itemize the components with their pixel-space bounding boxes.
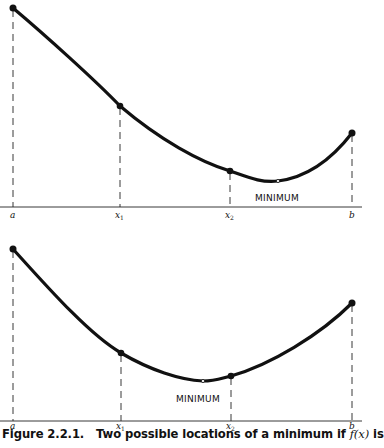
caption-tail: is [373,427,384,441]
top-panel: MINIMUM a x1 x2 b [0,5,362,222]
top-label-x1: x1 [115,210,124,221]
bottom-point-a [10,246,17,253]
bottom-point-min [201,379,204,382]
bottom-point-x2 [228,373,235,380]
top-point-x2 [227,168,234,175]
top-curve [13,8,352,181]
top-dashed-guides [13,10,352,207]
bottom-panel: MINIMUM a x1 x2 b [0,246,362,433]
top-point-a [10,5,17,12]
caption-fx: f(x) [350,427,369,441]
top-point-b [349,130,356,137]
caption-label: Figure 2.2.1. [2,427,84,441]
bottom-minimum-label: MINIMUM [176,394,220,404]
top-point-min [276,179,279,182]
top-label-b: b [349,210,355,220]
bottom-point-b [349,300,356,307]
top-point-x1 [117,103,124,110]
top-minimum-label: MINIMUM [255,193,299,203]
figure-caption: Figure 2.2.1. Two possible locations of … [2,427,362,441]
top-label-a: a [10,210,15,220]
bottom-point-x1 [118,350,125,357]
bottom-curve [13,249,352,381]
caption-text: Two possible locations of a minimum if [96,427,346,441]
top-label-x2: x2 [225,210,234,221]
